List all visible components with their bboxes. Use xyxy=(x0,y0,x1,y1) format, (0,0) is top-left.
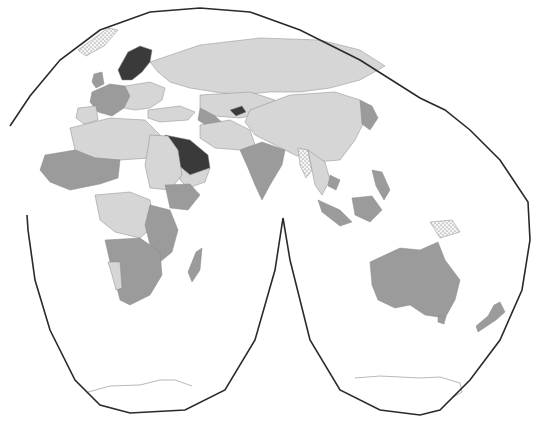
region-tasmania xyxy=(438,316,446,324)
region-namibia xyxy=(108,262,122,290)
map-canvas xyxy=(0,0,560,437)
region-madagascar xyxy=(188,248,202,282)
region-india xyxy=(240,142,285,200)
region-cambodia xyxy=(328,175,340,190)
region-russia xyxy=(150,38,385,95)
region-scandinavia xyxy=(118,46,152,80)
region-iberia xyxy=(76,106,98,124)
region-philippines xyxy=(372,170,390,200)
region-new-zealand xyxy=(476,302,505,332)
region-japan-korea xyxy=(360,100,378,130)
region-turkey-caucasus xyxy=(148,106,195,122)
region-australia xyxy=(370,242,460,318)
region-central-africa xyxy=(95,192,155,238)
antarctica-coastline xyxy=(88,376,462,398)
region-papua-new-guinea xyxy=(430,220,460,238)
antarctica-east xyxy=(355,376,462,398)
region-borneo-sulawesi xyxy=(352,196,382,222)
region-uk xyxy=(92,72,104,88)
region-indonesia-sumatra xyxy=(318,200,352,226)
world-map xyxy=(0,0,560,437)
country-regions xyxy=(40,28,505,332)
region-ethiopia-horn xyxy=(165,184,200,210)
antarctica-west xyxy=(88,380,192,392)
region-central-europe xyxy=(124,82,165,110)
